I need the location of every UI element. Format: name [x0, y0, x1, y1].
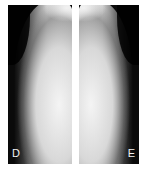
panel-label-d: D: [12, 148, 20, 159]
panel-label-e: E: [128, 148, 135, 159]
radiograph-panel-e: E: [79, 5, 139, 164]
radiograph-panel-d: D: [8, 5, 72, 164]
